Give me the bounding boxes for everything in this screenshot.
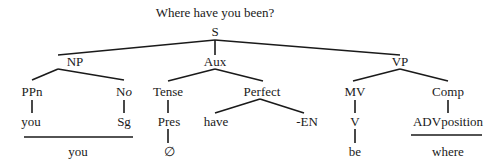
surface-null: ∅ — [164, 145, 175, 159]
edge-np-no — [58, 69, 124, 80]
node-vp: VP — [392, 55, 409, 69]
surface-where: where — [432, 145, 464, 159]
edge-vp-comp — [400, 69, 448, 81]
edge-s-vp — [215, 40, 400, 55]
node-no: No — [116, 85, 132, 99]
edge-vp-mv — [353, 69, 400, 81]
node-en: -EN — [296, 115, 318, 129]
node-aux: Aux — [204, 55, 226, 69]
node-have: have — [204, 115, 229, 129]
node-ppn: PPn — [22, 85, 43, 99]
node-v: V — [350, 115, 359, 129]
surface-be: be — [349, 145, 361, 159]
surface-you: you — [68, 145, 88, 159]
node-perfect: Perfect — [244, 85, 281, 99]
edge-s-np — [58, 40, 215, 55]
node-comp: Comp — [432, 85, 464, 99]
edge-perfect-en — [260, 99, 304, 113]
node-sg: Sg — [117, 115, 131, 129]
sentence-title: Where have you been? — [156, 6, 275, 20]
node-you: you — [21, 115, 41, 129]
edge-perfect-have — [215, 99, 260, 113]
node-s: S — [211, 25, 218, 39]
node-tense: Tense — [153, 85, 183, 99]
edge-aux-perfect — [215, 69, 263, 81]
node-pres: Pres — [158, 115, 180, 129]
node-advposition: ADVposition — [413, 115, 483, 129]
node-mv: MV — [345, 85, 366, 99]
edge-aux-tense — [168, 69, 215, 81]
edge-np-ppn — [32, 69, 58, 80]
node-np: NP — [67, 55, 84, 69]
